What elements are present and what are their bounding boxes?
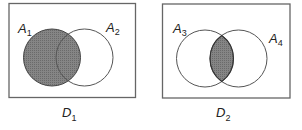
set-a1-circle: [24, 29, 81, 86]
venn-diagrams: A1 A2 D1 A3 A4 D2: [0, 0, 302, 130]
caption-d2: D2: [216, 105, 230, 123]
label-a3: A3: [172, 21, 187, 38]
diagram-d1: A1 A2 D1: [9, 4, 136, 124]
label-a1: A1: [17, 21, 32, 38]
label-a2: A2: [105, 20, 120, 37]
label-a4: A4: [268, 31, 283, 48]
caption-d1: D1: [62, 105, 76, 123]
diagram-d2: A3 A4 D2: [163, 4, 291, 123]
